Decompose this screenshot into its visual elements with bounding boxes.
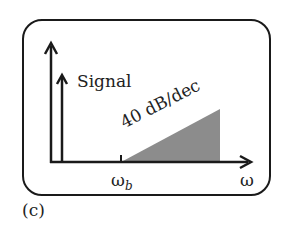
break-frequency-label: ωb [111, 170, 133, 193]
panel-label: (c) [22, 200, 45, 220]
break-frequency-subscript: b [125, 179, 133, 193]
signal-label: Signal [77, 71, 132, 91]
x-axis-label: ω [240, 170, 254, 190]
break-frequency-symbol: ω [111, 170, 125, 190]
